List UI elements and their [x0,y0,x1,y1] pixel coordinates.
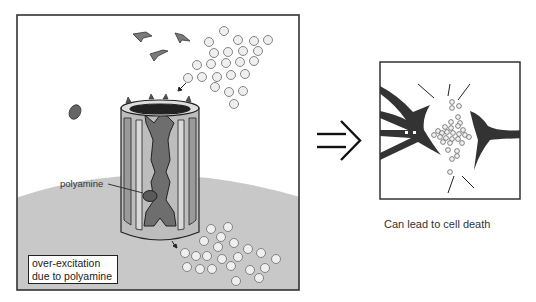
label-line-2: due to polyamine [32,270,117,283]
over-excitation-label-box: over-excitation due to polyamine [28,255,118,284]
ion-channel [121,94,199,240]
ion-channel-diagram: polyamine over-excitation due to polyami… [0,0,310,302]
label-line-1: over-excitation [32,257,117,270]
cell-death-diagram [378,60,524,202]
polyamine-label: polyamine [60,178,103,189]
cell-death-caption: Can lead to cell death [384,218,490,230]
polyamine-molecule-bound [143,191,157,202]
implies-arrow-icon [314,118,364,168]
